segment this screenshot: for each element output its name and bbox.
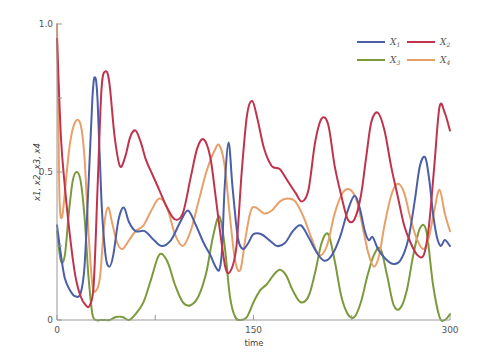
line-chart: 00.51.0 0150300 time x1, x2, x3, x4 X1X2… — [0, 0, 481, 364]
y-axis-label: x1, x2, x3, x4 — [32, 143, 42, 202]
y-tick-label: 0 — [47, 315, 53, 325]
legend-label-x4: X4 — [439, 55, 450, 66]
legend-label-x2: X2 — [439, 37, 450, 48]
x-axis-label: time — [244, 338, 263, 348]
x-tick-label: 150 — [245, 325, 262, 335]
y-tick-label: 1.0 — [39, 19, 54, 29]
series-line-x2 — [57, 39, 450, 307]
x-tick-label: 300 — [441, 325, 458, 335]
x-tick-label: 0 — [54, 325, 60, 335]
legend: X1X2X3X4 — [357, 37, 450, 66]
series-line-x1 — [57, 77, 450, 297]
legend-label-x3: X3 — [389, 55, 400, 66]
plot-lines — [57, 24, 450, 321]
legend-label-x1: X1 — [389, 37, 400, 48]
